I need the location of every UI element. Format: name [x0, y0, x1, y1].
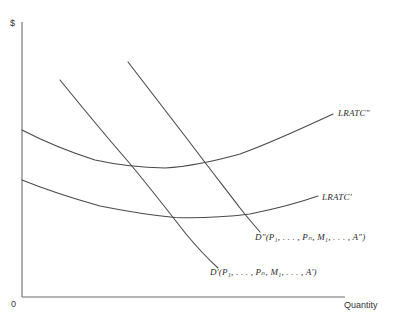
y-axis-label: $	[10, 18, 15, 28]
plot-canvas	[0, 0, 398, 325]
curve-label-lratc-prime: LRATC′	[322, 192, 352, 202]
curve-lratc-double-prime	[22, 114, 333, 168]
curve-label-lratc-double-prime: LRATC″	[338, 108, 370, 118]
axis-lines	[22, 22, 345, 297]
curve-label-demand-double-prime: D″(P₁, . . . , Pₙ, M₁, . . . , A″)	[255, 232, 365, 242]
curve-demand-double-prime	[128, 62, 260, 232]
origin-label: 0	[11, 299, 16, 309]
curve-lratc-prime	[22, 180, 318, 218]
curve-label-demand-prime: D′(P₁, . . . , Pₙ, M₁, . . . , A′)	[210, 267, 317, 277]
economics-cost-demand-figure: $ 0 Quantity LRATC″ LRATC′ D″(P₁, . . . …	[0, 0, 398, 325]
curve-demand-prime	[60, 80, 218, 268]
x-axis-label: Quantity	[344, 300, 378, 310]
